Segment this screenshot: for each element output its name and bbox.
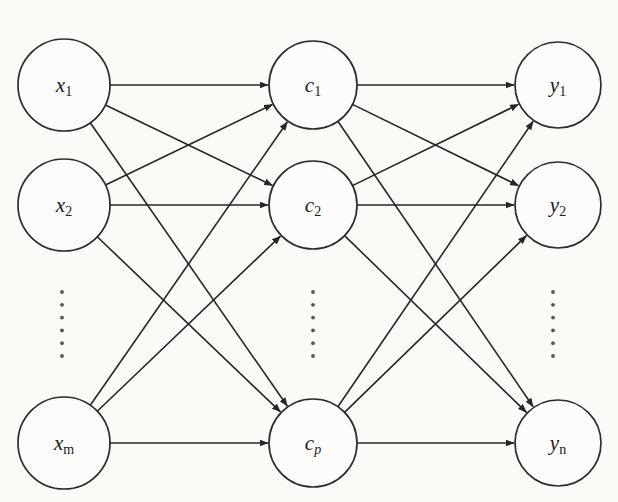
ellipsis-dot: [551, 329, 555, 333]
ellipsis-dot: [551, 341, 555, 345]
ellipsis-dot: [60, 329, 64, 333]
ellipsis-dot: [311, 354, 315, 358]
ellipsis-dot: [311, 290, 315, 294]
network-diagram-canvas: x1x2xmc1c2cpy1y2yn: [0, 0, 618, 502]
ellipsis-dot: [551, 354, 555, 358]
node-y2: y2: [515, 162, 601, 248]
node-c2: c2: [269, 161, 357, 249]
ellipses-group: [60, 290, 555, 358]
node-c1: c1: [269, 41, 357, 129]
ellipsis-dot: [311, 341, 315, 345]
ellipsis-hidden: [311, 290, 315, 358]
node-yn: yn: [515, 400, 601, 486]
ellipsis-dot: [311, 329, 315, 333]
ellipsis-dot: [60, 316, 64, 320]
ellipsis-dot: [60, 341, 64, 345]
ellipsis-dot: [551, 290, 555, 294]
ellipsis-dot: [60, 290, 64, 294]
node-y1: y1: [515, 42, 601, 128]
edges-group: [90, 85, 533, 443]
ellipsis-input: [60, 290, 64, 358]
ellipsis-dot: [60, 354, 64, 358]
node-xm: xm: [18, 397, 110, 489]
node-x2: x2: [18, 159, 110, 251]
ellipsis-dot: [551, 316, 555, 320]
neural-network-figure: x1x2xmc1c2cpy1y2yn: [0, 0, 618, 502]
node-cp: cp: [269, 399, 357, 487]
ellipsis-dot: [551, 303, 555, 307]
ellipsis-output: [551, 290, 555, 358]
ellipsis-dot: [311, 303, 315, 307]
ellipsis-dot: [60, 303, 64, 307]
node-x1: x1: [18, 39, 110, 131]
ellipsis-dot: [311, 316, 315, 320]
